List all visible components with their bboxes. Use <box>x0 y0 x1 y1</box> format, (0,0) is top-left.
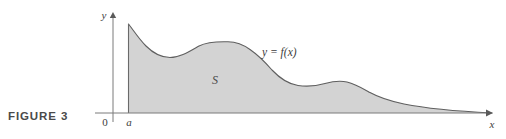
shaded-region-s <box>129 24 493 113</box>
figure-container: y x 0 a S y = f(x) FIGURE 3 <box>0 0 506 139</box>
region-label-s: S <box>212 73 218 87</box>
plot-area: y x 0 a S y = f(x) <box>0 0 506 139</box>
y-axis-label: y <box>101 9 107 21</box>
lower-limit-label: a <box>126 116 132 128</box>
x-axis-label: x <box>489 118 495 130</box>
figure-caption: FIGURE 3 <box>8 110 68 122</box>
y-axis-arrowhead <box>110 12 116 18</box>
x-axis-arrowhead <box>486 110 493 117</box>
origin-label: 0 <box>102 116 108 128</box>
curve-equation-label: y = f(x) <box>261 46 297 59</box>
